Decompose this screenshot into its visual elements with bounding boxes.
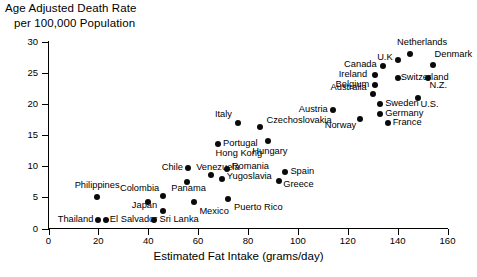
- data-point-label: U.K: [377, 54, 393, 63]
- x-axis-label: Estimated Fat Intake (grams/day): [0, 250, 477, 262]
- data-point: [395, 57, 401, 63]
- data-point-label: Chile: [162, 163, 183, 172]
- chart-title-line1: Age Adjusted Death Rate: [5, 2, 136, 14]
- data-point-label: Panama: [171, 184, 206, 193]
- y-axis-tick: [42, 104, 49, 105]
- y-axis-tick-label: 20: [10, 99, 38, 109]
- x-axis-tick-label: 160: [433, 236, 463, 246]
- data-point: [377, 101, 383, 107]
- data-point-label: Puerto Rico: [234, 203, 283, 212]
- data-point-label: Austria: [299, 105, 328, 114]
- data-point: [103, 217, 109, 223]
- data-point: [225, 196, 231, 202]
- data-point: [235, 120, 241, 126]
- data-point-label: Canada: [344, 60, 377, 69]
- data-point-label: Belgium: [336, 80, 370, 89]
- data-point-label: Mexico: [199, 207, 228, 216]
- data-point: [215, 141, 221, 147]
- data-point: [185, 165, 191, 171]
- data-point: [407, 51, 413, 57]
- data-point-label: Italy: [215, 110, 232, 119]
- data-point-label: Czechoslovakia: [266, 116, 331, 125]
- data-point-label: Denmark: [435, 51, 473, 60]
- data-point: [265, 138, 271, 144]
- data-point-label: Yugoslavia: [227, 173, 272, 182]
- data-point: [330, 107, 336, 113]
- y-axis-tick: [42, 73, 49, 74]
- x-axis-tick-label: 40: [133, 236, 163, 246]
- y-axis-tick: [42, 42, 49, 43]
- x-axis-tick-label: 120: [333, 236, 363, 246]
- data-point: [257, 124, 263, 130]
- data-point-label: U.S.: [421, 100, 439, 109]
- y-axis-tick-label: 0: [10, 224, 38, 234]
- x-axis-tick-label: 60: [183, 236, 213, 246]
- y-axis-tick: [42, 166, 49, 167]
- data-point-label: Sri Lanka: [159, 215, 198, 224]
- y-axis-tick: [42, 197, 49, 198]
- data-point-label: N.Z.: [430, 81, 448, 90]
- data-point: [208, 172, 214, 178]
- data-point-label: Netherlands: [397, 38, 447, 47]
- data-point-label: Romania: [232, 163, 269, 172]
- data-point: [276, 178, 282, 184]
- data-point: [357, 116, 363, 122]
- data-point: [430, 62, 436, 68]
- data-point-label: Ireland: [339, 71, 367, 80]
- data-point: [370, 91, 376, 97]
- x-axis-tick-label: 100: [283, 236, 313, 246]
- y-axis-tick-label: 25: [10, 68, 38, 78]
- data-point: [372, 72, 378, 78]
- data-point-label: Sweden: [385, 99, 419, 108]
- data-point: [385, 120, 391, 126]
- y-axis-tick-label: 30: [10, 37, 38, 47]
- data-point-label: Hungary: [252, 147, 287, 156]
- data-point: [377, 111, 383, 117]
- data-point-label: France: [393, 119, 422, 128]
- data-point-label: Philippines: [75, 181, 120, 190]
- data-point: [145, 199, 151, 205]
- data-point: [219, 176, 225, 182]
- data-point-label: Thailand: [58, 215, 94, 224]
- data-point-label: El Salvador: [110, 215, 158, 224]
- y-axis-tick-label: 5: [10, 192, 38, 202]
- scatter-chart: Age Adjusted Death Rate per 100,000 Popu…: [0, 0, 477, 277]
- y-axis-tick-label: 15: [10, 130, 38, 140]
- data-point: [380, 63, 386, 69]
- y-axis-tick: [42, 135, 49, 136]
- data-point-label: Norway: [325, 121, 357, 130]
- data-point: [372, 82, 378, 88]
- data-point: [160, 193, 166, 199]
- data-point: [94, 194, 100, 200]
- chart-title-line2: per 100,000 Population: [14, 17, 135, 29]
- x-axis-tick-label: 140: [383, 236, 413, 246]
- x-axis-tick-label: 0: [34, 236, 64, 246]
- data-point-label: Greece: [283, 180, 314, 189]
- data-point-label: Spain: [290, 168, 314, 177]
- data-point-label: Colombia: [120, 184, 159, 193]
- x-axis-tick-label: 20: [83, 236, 113, 246]
- data-point: [191, 199, 197, 205]
- data-point: [282, 169, 288, 175]
- y-axis-tick-label: 10: [10, 161, 38, 171]
- data-point: [95, 217, 101, 223]
- x-axis-tick-label: 80: [233, 236, 263, 246]
